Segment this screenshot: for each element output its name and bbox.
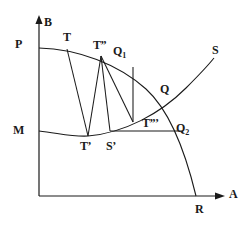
- axis-label-a: A: [229, 188, 238, 200]
- point-label-r: R: [195, 203, 204, 215]
- point-label-m: M: [13, 124, 24, 136]
- vertical-axis-arrowhead: [35, 15, 42, 24]
- production-possibility-curve-pr: [39, 48, 196, 196]
- chord-t2-tprime: [88, 56, 101, 136]
- chord-t2-sprime: [101, 56, 110, 131]
- point-label-t-triple-prime: T”’: [142, 117, 159, 129]
- point-label-t-prime: T’: [80, 140, 91, 152]
- point-label-s-prime: S’: [106, 140, 116, 152]
- point-label-p: P: [15, 38, 22, 50]
- diagram-canvas: [0, 0, 251, 228]
- point-label-q2: Q2: [176, 122, 189, 137]
- point-label-t-double-prime: T”: [93, 39, 106, 51]
- chord-t2-t3: [101, 56, 133, 122]
- point-label-s: S: [212, 44, 219, 56]
- axis-label-b: B: [44, 16, 52, 28]
- economics-diagram-figure: B A P M T T” Q1 S Q T”’ Q2 T’ S’ R: [0, 0, 251, 228]
- chords-group: [67, 49, 133, 136]
- point-label-t: T: [63, 31, 71, 43]
- point-label-q: Q: [160, 83, 169, 95]
- point-label-q1: Q1: [113, 45, 126, 60]
- horizontal-axis-arrowhead: [215, 192, 225, 199]
- chord-t-tprime: [67, 49, 88, 136]
